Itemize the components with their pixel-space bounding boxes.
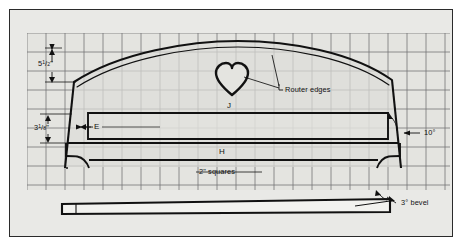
part-label-e: E (94, 123, 99, 131)
part-label-j: J (227, 102, 231, 110)
part-e-rail (88, 113, 388, 139)
dimension-label-5-half: 51/2" (38, 60, 53, 67)
bevel-label: 3° bevel (401, 199, 429, 206)
beveled-strip (62, 199, 390, 214)
router-edges-label: Router edges (285, 86, 331, 93)
angle-10-label: 10° (424, 129, 435, 136)
dimension-label-3-eighth: 31/8" (34, 124, 49, 131)
technical-drawing (0, 0, 462, 246)
grid-scale-label: 2" squares (199, 168, 235, 175)
part-label-h: H (219, 148, 225, 156)
drawing-page: 51/2" 31/8" Router edges 2" squares 10° … (0, 0, 462, 246)
